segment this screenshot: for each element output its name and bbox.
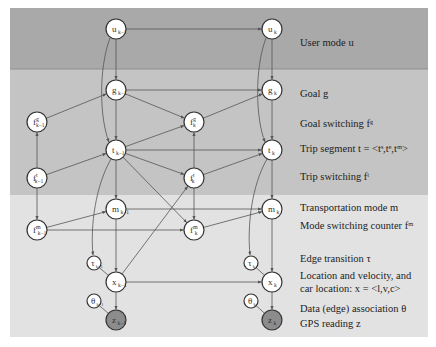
node-label: fgk xyxy=(190,116,196,128)
node-g_k: g k xyxy=(262,80,282,100)
legend-data-assoc: Data (edge) association θ xyxy=(300,303,406,315)
physical-band xyxy=(10,195,428,337)
node-z_k: z k xyxy=(262,310,282,330)
legend-goal: Goal g xyxy=(300,88,329,99)
node-fm_k: fmk xyxy=(184,220,204,240)
legend-edge-transition: Edge transition τ xyxy=(300,253,371,264)
node-z_km1: z k−1 xyxy=(106,310,126,330)
legend-trip-switching: Trip switching fᵗ xyxy=(300,171,369,182)
node-x_km1: x k−1 xyxy=(106,272,127,292)
node-tau_k: τ k xyxy=(244,256,258,270)
node-t_k: t k xyxy=(262,140,282,160)
dbn-diagram: u k−1u kg k−1g kfgk−1fgkt k−1t kftk−1ftk… xyxy=(0,0,436,347)
node-u_km1: u k−1 xyxy=(106,19,127,39)
legend-gps: GPS reading z xyxy=(300,318,361,329)
legend-transport-mode: Transportation mode m xyxy=(300,202,398,213)
user-mode-band xyxy=(10,8,428,69)
node-fg_k: fgk xyxy=(184,112,204,132)
node-fm_km1: fmk−1 xyxy=(27,220,47,240)
node-label: fmk xyxy=(190,224,198,236)
node-th_k: θ k xyxy=(244,294,258,308)
node-t_km1: t k−1 xyxy=(106,140,126,160)
legend-location-1: Location and velocity, and xyxy=(300,270,412,281)
node-g_km1: g k−1 xyxy=(106,80,127,100)
legend-goal-switching: Goal switching fᵍ xyxy=(300,118,373,129)
node-fg_km1: fgk−1 xyxy=(27,112,47,132)
legend-mode-switching: Mode switching counter fᵐ xyxy=(300,220,413,231)
node-m_k: m k xyxy=(262,199,282,219)
legend-location-2: car location: x = <l,v,c> xyxy=(300,283,401,294)
node-ft_km1: ftk−1 xyxy=(27,168,47,188)
legend-user-mode: User mode u xyxy=(300,37,354,48)
node-label: ftk xyxy=(190,172,195,184)
node-u_k: u k xyxy=(262,19,282,39)
node-x_k: x k xyxy=(262,272,282,292)
legend-trip-segment: Trip segment t = <tˢ,tᵉ,tᵐ> xyxy=(300,143,408,154)
node-ft_k: ftk xyxy=(184,168,204,188)
